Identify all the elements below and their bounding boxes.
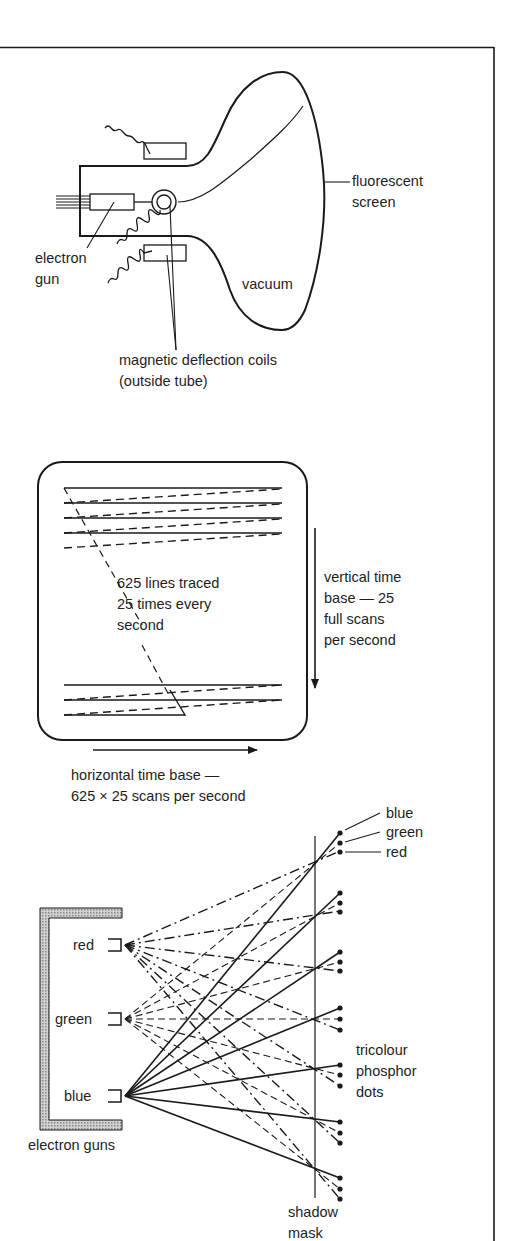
- leader-blue: [345, 813, 380, 830]
- blue-gun-beams: [125, 833, 340, 1178]
- crt-diagram: [0, 0, 514, 1241]
- gun-socket-blue: [108, 1090, 121, 1102]
- label-line: 25 times every: [117, 594, 219, 615]
- label-line: gun: [35, 269, 87, 290]
- label-line: 625 lines traced: [117, 573, 219, 594]
- label-line: magnetic deflection coils: [119, 350, 277, 371]
- label-625-lines: 625 lines traced 25 times every second: [117, 573, 219, 636]
- label-line: per second: [324, 630, 401, 651]
- label-vertical-time-base: vertical time base — 25 full scans per s…: [324, 567, 401, 651]
- label-line: second: [117, 615, 219, 636]
- label-dot-green: green: [386, 822, 423, 843]
- coil-wire-middle: [117, 210, 160, 244]
- label-tricolour-phosphor-dots: tricolour phosphor dots: [356, 1040, 416, 1103]
- label-line: mask: [288, 1223, 338, 1241]
- focus-ring-outer: [152, 190, 176, 214]
- label-dot-red: red: [386, 842, 407, 863]
- electron-beam: [178, 106, 303, 202]
- gun-socket-red: [108, 939, 121, 951]
- deflection-coil-top: [144, 143, 186, 159]
- label-electron-gun: electron gun: [35, 248, 87, 290]
- label-line: full scans: [324, 609, 401, 630]
- label-line: vertical time: [324, 567, 401, 588]
- label-line: (outside tube): [119, 371, 277, 392]
- label-gun-red: red: [73, 935, 94, 956]
- label-horizontal-time-base: horizontal time base — 625 × 25 scans pe…: [71, 765, 246, 807]
- red-gun-beams: [125, 851, 340, 1199]
- gun-leads: [56, 196, 90, 208]
- label-shadow-mask: shadow mask: [288, 1202, 338, 1241]
- deflection-coil-bottom: [144, 245, 186, 261]
- leader-green: [345, 832, 380, 842]
- coil-leader-a: [170, 206, 176, 350]
- label-line: base — 25: [324, 588, 401, 609]
- label-electron-guns: electron guns: [28, 1135, 115, 1156]
- coil-wire-bottom: [108, 249, 152, 283]
- label-line: dots: [356, 1082, 416, 1103]
- electron-gun: [90, 194, 134, 210]
- coil-wire-top: [105, 126, 150, 154]
- label-line: shadow: [288, 1202, 338, 1223]
- coil-leader-b: [167, 255, 176, 350]
- gun-socket-green: [108, 1013, 121, 1025]
- label-line: 625 × 25 scans per second: [71, 786, 246, 807]
- label-line: screen: [352, 192, 423, 213]
- label-magnetic-deflection-coils: magnetic deflection coils (outside tube): [119, 350, 277, 392]
- label-line: electron: [35, 248, 87, 269]
- phosphor-dots: [337, 830, 342, 1201]
- label-line: phosphor: [356, 1061, 416, 1082]
- label-gun-blue: blue: [64, 1086, 91, 1107]
- label-line: fluorescent: [352, 171, 423, 192]
- label-gun-green: green: [55, 1009, 92, 1030]
- crt-tube-drawing: [56, 72, 350, 350]
- figure-frame: [0, 47, 494, 1241]
- label-vacuum: vacuum: [242, 274, 293, 295]
- label-dot-blue: blue: [386, 803, 413, 824]
- label-fluorescent-screen: fluorescent screen: [352, 171, 423, 213]
- label-line: tricolour: [356, 1040, 416, 1061]
- label-line: horizontal time base —: [71, 765, 246, 786]
